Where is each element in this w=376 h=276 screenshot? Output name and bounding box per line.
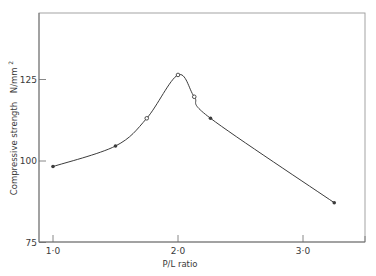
x-tick-label: 2·0 <box>171 246 186 256</box>
x-tick-label: 3·0 <box>296 246 311 256</box>
data-point-marker <box>51 165 55 169</box>
data-point-open-marker <box>192 95 196 99</box>
y-tick-label: 75 <box>26 238 37 248</box>
data-point-marker <box>332 201 336 205</box>
y-tick-label: 100 <box>20 156 37 166</box>
data-curve <box>53 74 334 202</box>
y-axis-title-sup: 2 <box>7 61 14 65</box>
y-axis-title-unit: N/mm <box>9 67 19 93</box>
x-axis-title: P/L ratio <box>162 259 197 269</box>
data-point-marker <box>209 116 213 120</box>
data-point-marker <box>114 144 118 148</box>
ticks: 751001251·02·03·0 <box>20 75 365 257</box>
plot-frame <box>39 13 365 242</box>
strength-curve <box>53 74 334 202</box>
compressive-strength-chart: 751001251·02·03·0 P/L ratio Compressive … <box>0 0 376 276</box>
axes <box>39 13 365 242</box>
y-axis-title-main: Compressive strength <box>9 102 19 195</box>
data-point-open-marker <box>176 73 180 77</box>
y-axis-title: Compressive strength N/mm 2 <box>7 61 19 196</box>
data-markers <box>51 73 336 204</box>
y-tick-label: 125 <box>20 75 37 85</box>
data-point-open-marker <box>145 116 149 120</box>
x-tick-label: 1·0 <box>46 246 61 256</box>
